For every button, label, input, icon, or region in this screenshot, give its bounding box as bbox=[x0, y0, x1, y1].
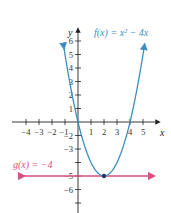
g-label: g(x) = −4 bbox=[13, 159, 53, 171]
svg-text:1: 1 bbox=[89, 127, 93, 137]
svg-text:−3: −3 bbox=[34, 127, 43, 137]
svg-text:−3: −3 bbox=[64, 144, 73, 154]
graph: −4 −3 −2 −1 1 2 3 4 5 6 5 4 3 2 1 −2 −3 … bbox=[0, 0, 171, 213]
f-curve-line bbox=[64, 46, 145, 176]
f-label: f(x) = x² − 4x bbox=[94, 27, 149, 39]
svg-text:5: 5 bbox=[141, 127, 145, 137]
svg-text:3: 3 bbox=[115, 127, 119, 137]
svg-text:2: 2 bbox=[102, 127, 106, 137]
svg-text:1: 1 bbox=[69, 104, 73, 114]
svg-text:−6: −6 bbox=[64, 185, 73, 195]
x-axis-label: x bbox=[159, 127, 165, 138]
y-axis-label: y bbox=[67, 27, 73, 38]
intersection-point bbox=[102, 174, 106, 178]
svg-text:−4: −4 bbox=[21, 127, 31, 137]
svg-text:−2: −2 bbox=[47, 127, 56, 137]
svg-text:5: 5 bbox=[69, 50, 73, 60]
svg-text:4: 4 bbox=[69, 63, 74, 73]
svg-text:−2: −2 bbox=[64, 131, 73, 141]
